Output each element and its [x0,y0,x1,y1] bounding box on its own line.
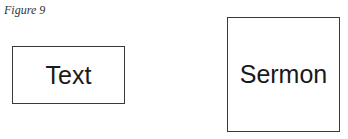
sermon-box-label: Sermon [240,60,328,89]
text-box: Text [12,46,125,104]
figure-caption: Figure 9 [4,3,45,18]
text-box-label: Text [46,61,92,90]
sermon-box: Sermon [227,17,340,132]
